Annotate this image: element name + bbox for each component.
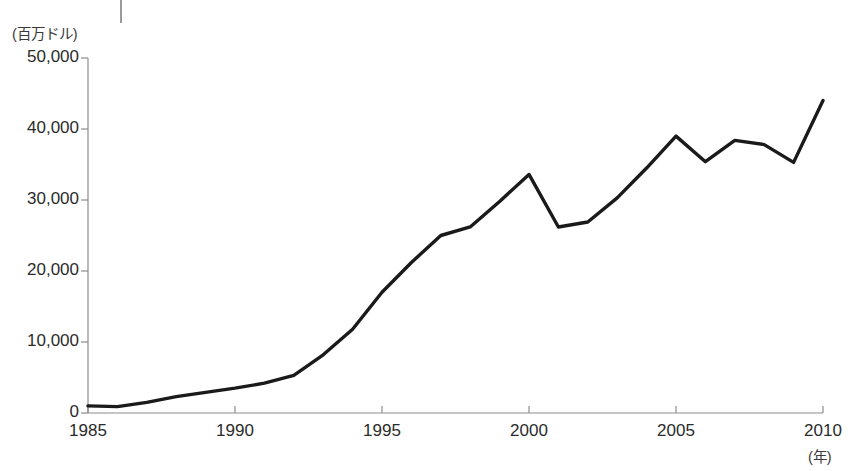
x-tick-label: 2005: [641, 421, 711, 441]
x-tick-label: 2000: [494, 421, 564, 441]
x-tick-label: 1995: [347, 421, 417, 441]
y-tick-label: 20,000: [1, 260, 79, 280]
line-chart: [0, 0, 857, 471]
x-tick-label: 1985: [53, 421, 123, 441]
chart-page: (百万ドル) (年) 010,00020,00030,00040,00050,0…: [0, 0, 857, 471]
y-tick-label: 10,000: [1, 331, 79, 351]
x-tick-label: 1990: [200, 421, 270, 441]
y-tick-label: 40,000: [1, 118, 79, 138]
y-tick-label: 50,000: [1, 47, 79, 67]
x-tick-label: 2010: [788, 421, 857, 441]
y-tick-label: 30,000: [1, 189, 79, 209]
y-tick-label: 0: [1, 402, 79, 422]
